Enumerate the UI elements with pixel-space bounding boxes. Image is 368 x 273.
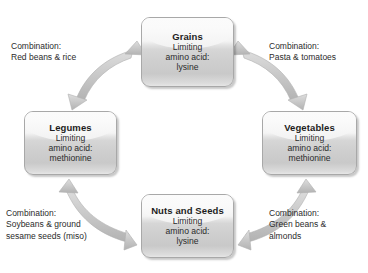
caption-nuts-legumes-label: Combination: <box>6 208 87 219</box>
caption-grains-vegetables-label: Combination: <box>269 41 336 52</box>
caption-legumes-grains: Combination: Red beans & rice <box>11 41 76 64</box>
caption-grains-vegetables-line-1: Pasta & tomatoes <box>269 52 336 63</box>
caption-nuts-legumes-line-2: sesame seeds (miso) <box>6 231 87 242</box>
node-vegetables-title: Vegetables <box>284 123 335 134</box>
node-grains: Grains Limiting amino acid: lysine <box>141 17 234 87</box>
caption-nuts-legumes-line-1: Soybeans & ground <box>6 219 87 230</box>
node-vegetables-line-3: methionine <box>284 154 335 164</box>
node-legumes-line-3: methionine <box>49 154 93 164</box>
node-nuts-and-seeds-title: Nuts and Seeds <box>151 206 224 217</box>
caption-nuts-legumes: Combination: Soybeans & ground sesame se… <box>6 208 87 242</box>
caption-legumes-grains-label: Combination: <box>11 41 76 52</box>
node-vegetables-content: Vegetables Limiting amino acid: methioni… <box>280 123 339 164</box>
caption-vegetables-nuts-line-2: almonds <box>269 231 326 242</box>
node-vegetables: Vegetables Limiting amino acid: methioni… <box>262 111 357 175</box>
caption-vegetables-nuts: Combination: Green beans & almonds <box>269 208 326 242</box>
node-nuts-and-seeds-line-3: lysine <box>151 237 224 247</box>
node-grains-content: Grains Limiting amino acid: lysine <box>162 32 214 73</box>
arrow-legumes-grains <box>68 41 146 110</box>
node-grains-title: Grains <box>166 32 210 43</box>
node-grains-line-3: lysine <box>166 63 210 73</box>
caption-grains-vegetables: Combination: Pasta & tomatoes <box>269 41 336 64</box>
node-nuts-and-seeds-content: Nuts and Seeds Limiting amino acid: lysi… <box>147 206 228 247</box>
node-legumes-title: Legumes <box>49 123 93 134</box>
caption-vegetables-nuts-line-1: Green beans & <box>269 219 326 230</box>
protein-complementarity-diagram: Grains Limiting amino acid: lysine Legum… <box>0 0 368 273</box>
caption-legumes-grains-line-1: Red beans & rice <box>11 52 76 63</box>
node-legumes: Legumes Limiting amino acid: methionine <box>24 111 117 175</box>
node-nuts-and-seeds: Nuts and Seeds Limiting amino acid: lysi… <box>141 194 234 258</box>
node-legumes-content: Legumes Limiting amino acid: methionine <box>45 123 97 164</box>
caption-vegetables-nuts-label: Combination: <box>269 208 326 219</box>
